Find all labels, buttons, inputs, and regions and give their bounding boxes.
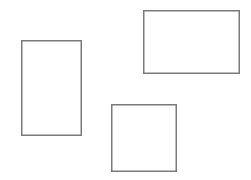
diagram-svg: [0, 0, 251, 180]
diagram-canvas: [0, 0, 251, 180]
canvas-background: [0, 0, 251, 180]
